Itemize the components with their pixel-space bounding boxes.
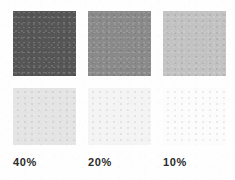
swatch-bottom-40 (13, 88, 76, 145)
swatch-fill (88, 11, 151, 76)
swatch-top-20 (88, 11, 151, 76)
swatch-top-10 (163, 11, 226, 76)
swatch-top-40 (13, 11, 76, 76)
swatch-fill (88, 88, 151, 145)
swatch-row-bottom (0, 88, 235, 154)
swatch-row-top (0, 11, 235, 77)
tint-label-20: 20% (88, 155, 112, 169)
swatch-fill (13, 11, 76, 76)
swatch-bottom-20 (88, 88, 151, 145)
swatch-fill (163, 88, 226, 145)
swatch-fill (13, 88, 76, 145)
swatch-bottom-10 (163, 88, 226, 145)
tint-label-10: 10% (163, 155, 187, 169)
tint-label-40: 40% (13, 155, 37, 169)
tint-swatch-chart: 40% 20% 10% (0, 0, 235, 180)
swatch-fill (163, 11, 226, 76)
tint-label-row: 40% 20% 10% (0, 155, 235, 173)
